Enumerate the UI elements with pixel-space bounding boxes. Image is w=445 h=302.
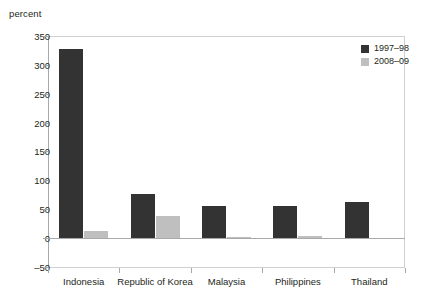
y-axis-tick-mark bbox=[43, 123, 48, 124]
y-axis-unit-label: percent bbox=[9, 8, 41, 19]
x-axis-tick-mark bbox=[262, 268, 263, 273]
x-axis-tick-label: Philippines bbox=[275, 276, 321, 287]
y-axis-tick-mark bbox=[43, 151, 48, 152]
x-axis-tick-label: Indonesia bbox=[63, 276, 104, 287]
bar bbox=[202, 206, 226, 238]
x-axis-tick-label: Thailand bbox=[351, 276, 387, 287]
x-axis-tick-mark bbox=[334, 268, 335, 273]
x-axis-tick-mark bbox=[405, 268, 406, 273]
legend-swatch-icon bbox=[361, 58, 369, 66]
x-axis-tick-mark bbox=[191, 268, 192, 273]
bar bbox=[345, 202, 369, 238]
x-axis-tick-mark bbox=[119, 268, 120, 273]
bar bbox=[156, 216, 180, 238]
y-axis-tick-mark bbox=[43, 65, 48, 66]
legend-item-label: 2008–09 bbox=[374, 55, 409, 68]
bar bbox=[227, 237, 251, 238]
bar bbox=[298, 236, 322, 238]
bar bbox=[273, 206, 297, 238]
bar bbox=[59, 49, 83, 238]
zero-line bbox=[48, 238, 405, 239]
bar bbox=[131, 194, 155, 238]
y-axis-tick-mark bbox=[43, 209, 48, 210]
y-axis-tick-mark bbox=[43, 36, 48, 37]
legend-item-label: 1997–98 bbox=[374, 42, 409, 55]
bar-chart: percent 350300250200150100500–50 Indones… bbox=[0, 0, 445, 302]
x-axis-tick-label: Malaysia bbox=[208, 276, 246, 287]
legend-item: 2008–09 bbox=[361, 55, 409, 68]
legend-swatch-icon bbox=[361, 45, 369, 53]
x-axis-tick-mark bbox=[48, 268, 49, 273]
y-axis-tick-mark bbox=[43, 180, 48, 181]
legend-item: 1997–98 bbox=[361, 42, 409, 55]
x-axis-tick-label: Republic of Korea bbox=[117, 276, 193, 287]
legend: 1997–98 2008–09 bbox=[361, 42, 409, 68]
y-axis-tick-mark bbox=[43, 94, 48, 95]
bar bbox=[84, 231, 108, 239]
